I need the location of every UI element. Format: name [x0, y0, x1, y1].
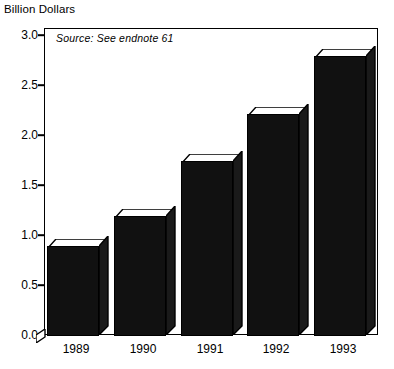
y-axis-tick-label: 3.0 [0, 29, 38, 41]
x-axis-tick-label-1993: 1993 [330, 342, 357, 356]
bar-side-face [166, 206, 177, 335]
y-axis-tick-mark [38, 134, 44, 136]
bar-1992 [247, 104, 308, 335]
y-axis-tick-label: 2.0 [0, 129, 38, 141]
bar-side-face [233, 151, 244, 335]
source-note: Source: See endnote 61 [56, 32, 174, 44]
y-axis-tick-mark [38, 34, 44, 36]
y-axis-tick-label: 2.5 [0, 79, 38, 91]
bar-1989 [47, 236, 108, 335]
y-axis-tick-mark [38, 84, 44, 86]
bar-1993 [314, 46, 375, 335]
x-axis-tick-label-1989: 1989 [63, 342, 90, 356]
bar-side-face [299, 104, 310, 335]
bar-front-face [181, 161, 233, 336]
y-axis-tick-label: 0.5 [0, 279, 38, 291]
bar-side-face [99, 236, 110, 335]
bar-side-face [366, 46, 377, 335]
axis-origin-wedge [36, 329, 50, 343]
x-axis-tick-label-1992: 1992 [263, 342, 290, 356]
bar-chart: Billion Dollars Source: See endnote 61 0… [0, 0, 394, 369]
y-axis-tick-mark [38, 284, 44, 286]
x-axis-tick-label-1991: 1991 [197, 342, 224, 356]
chart-axis-title: Billion Dollars [4, 3, 75, 15]
bar-front-face [47, 246, 99, 336]
x-axis-tick-label-1990: 1990 [130, 342, 157, 356]
y-axis-tick-label: 1.5 [0, 179, 38, 191]
bar-1991 [181, 151, 242, 335]
y-axis-tick-mark [38, 234, 44, 236]
bar-front-face [114, 216, 166, 336]
y-axis-tick-mark [38, 184, 44, 186]
bar-front-face [247, 114, 299, 336]
bar-front-face [314, 56, 366, 336]
y-axis-tick-label: 1.0 [0, 229, 38, 241]
y-axis-tick-label: 0.0 [0, 329, 38, 341]
bar-1990 [114, 206, 175, 335]
